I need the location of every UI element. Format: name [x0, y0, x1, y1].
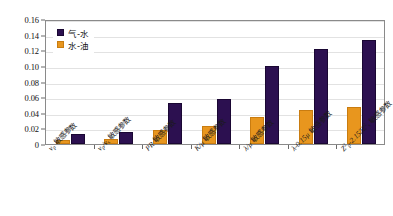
x-axis-labels: vp 敏感参数vp/vs 敏感参数PR 敏感参数K/μ 敏感参数λ/μ 敏感参数…	[0, 147, 392, 216]
y-axis-tick-label: 0.04	[25, 109, 39, 119]
y-axis-tick-label: 0.06	[25, 93, 39, 103]
y-axis-tick-label: 0.14	[25, 31, 39, 41]
bar-gas-water	[119, 132, 133, 144]
legend-item-label: 水-油	[68, 39, 89, 51]
y-axis-tick-label: 0.12	[25, 46, 39, 56]
y-axis-tick-label: 0.08	[25, 78, 39, 88]
legend-item[interactable]: 气-水	[57, 27, 89, 38]
legend-swatch-icon	[57, 41, 64, 48]
legend: 气-水水-油	[53, 24, 94, 54]
legend-item[interactable]: 水-油	[57, 39, 89, 50]
bar-gas-water	[71, 134, 85, 144]
y-axis-tick-label: 0.10	[25, 62, 39, 72]
y-axis: 0.160.140.120.100.080.060.040.020	[0, 20, 45, 145]
legend-swatch-icon	[57, 29, 64, 36]
legend-item-label: 气-水	[68, 27, 89, 39]
y-axis-tick-label: 0.02	[25, 124, 39, 134]
y-axis-tick-label: 0.16	[25, 15, 39, 25]
